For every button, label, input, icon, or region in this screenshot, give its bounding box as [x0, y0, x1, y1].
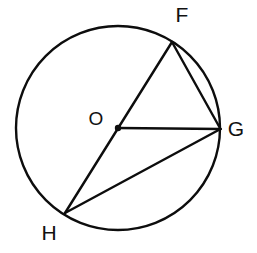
center-dot — [115, 125, 121, 131]
segment-chord-FG — [172, 42, 221, 129]
point-label-F: F — [176, 3, 189, 26]
circle-geometry-figure: OFGH — [0, 0, 257, 253]
point-label-H: H — [41, 221, 56, 244]
center-label-O: O — [89, 108, 104, 129]
point-label-G: G — [228, 117, 244, 140]
segment-chord-HG — [65, 129, 221, 213]
geometry-svg: OFGH — [0, 0, 257, 253]
segment-radius-OG — [118, 128, 221, 129]
